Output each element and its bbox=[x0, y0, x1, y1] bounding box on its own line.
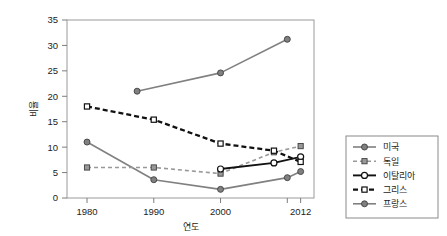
y-tick-label: 5 bbox=[53, 167, 58, 178]
data-point bbox=[134, 88, 140, 94]
y-tick-label: 15 bbox=[47, 116, 58, 127]
y-tick-label: 10 bbox=[47, 142, 58, 153]
legend-label-3: 그리스 bbox=[383, 185, 407, 195]
y-tick-label: 35 bbox=[47, 14, 58, 25]
data-point bbox=[284, 175, 290, 181]
data-point bbox=[151, 165, 156, 170]
legend-marker-3 bbox=[362, 187, 367, 192]
data-point bbox=[151, 117, 156, 122]
y-tick-label: 30 bbox=[47, 40, 58, 51]
x-tick-label: 1990 bbox=[143, 206, 164, 217]
y-tick-label: 0 bbox=[53, 192, 58, 203]
x-tick-label: 2012 bbox=[290, 206, 311, 217]
data-point bbox=[218, 166, 224, 172]
series-4 bbox=[134, 36, 290, 94]
y-axis-label: 비율 bbox=[29, 101, 39, 117]
data-point bbox=[271, 148, 276, 153]
series-line-2 bbox=[221, 157, 301, 169]
legend-marker-0 bbox=[362, 144, 368, 150]
line-chart: 051015202530351980199020002012연도비율미국독일이탈… bbox=[0, 0, 447, 236]
x-tick-label: 1980 bbox=[76, 206, 97, 217]
series-0 bbox=[84, 139, 304, 192]
series-line-4 bbox=[137, 39, 287, 91]
data-point bbox=[298, 169, 304, 175]
legend: 미국독일이탈리아그리스프랑스 bbox=[346, 136, 438, 218]
y-tick-label: 25 bbox=[47, 65, 58, 76]
data-point bbox=[84, 104, 89, 109]
chart-figure: 051015202530351980199020002012연도비율미국독일이탈… bbox=[0, 0, 447, 236]
legend-marker-4 bbox=[362, 201, 368, 207]
legend-marker-2 bbox=[362, 172, 368, 178]
series-3 bbox=[84, 104, 303, 165]
y-tick-label: 20 bbox=[47, 91, 58, 102]
data-point bbox=[218, 70, 224, 76]
data-point bbox=[151, 177, 157, 183]
data-point bbox=[284, 36, 290, 42]
x-tick-label: 2000 bbox=[210, 206, 231, 217]
legend-label-1: 독일 bbox=[383, 157, 399, 167]
y-axis: 05101520253035 bbox=[47, 14, 67, 203]
data-point bbox=[218, 141, 223, 146]
data-point bbox=[84, 139, 90, 145]
x-axis: 1980199020002012 bbox=[76, 198, 311, 217]
data-point bbox=[218, 186, 224, 192]
data-point bbox=[84, 165, 89, 170]
legend-marker-1 bbox=[362, 159, 367, 164]
data-point bbox=[271, 160, 277, 166]
data-point bbox=[298, 159, 303, 164]
series-group bbox=[84, 36, 304, 192]
x-axis-label: 연도 bbox=[183, 222, 199, 232]
legend-label-0: 미국 bbox=[383, 142, 399, 152]
legend-label-4: 프랑스 bbox=[383, 198, 407, 209]
data-point bbox=[298, 144, 303, 149]
legend-label-2: 이탈리아 bbox=[383, 171, 416, 181]
